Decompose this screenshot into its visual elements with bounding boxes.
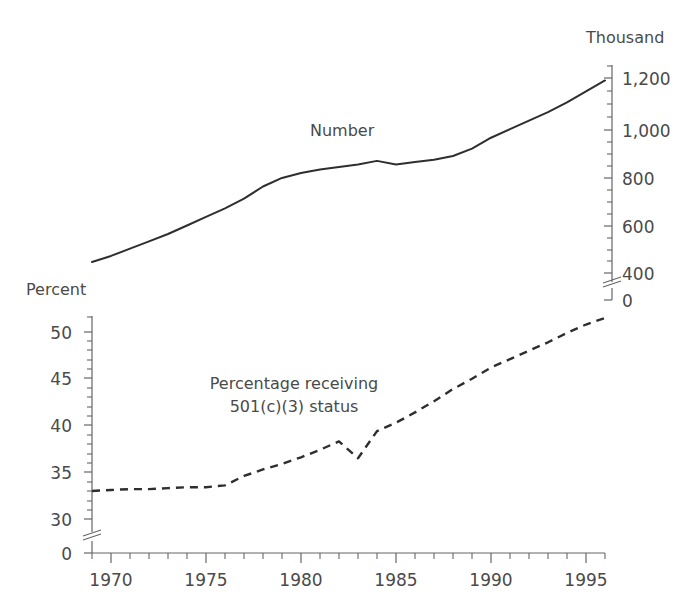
number-tick-label-1000: 1,000 [622,121,671,141]
number-axis-group: Thousand [585,28,671,311]
x-axis-major-ticks [111,553,586,563]
x-tick-label-1990: 1990 [469,570,512,590]
number-tick-label-600: 600 [622,217,654,237]
x-tick-label-1985: 1985 [374,570,417,590]
percent-tick-label-0: 0 [61,544,72,564]
number-tick-label-0: 0 [622,291,633,311]
x-tick-label-1970: 1970 [89,570,132,590]
number-axis-minor-ticks [607,66,612,261]
percent-tick-label-35: 35 [50,463,72,483]
number-tick-label-800: 800 [622,169,654,189]
annotation-percent-line2: 501(c)(3) status [230,397,359,416]
number-axis-unit-label: Thousand [585,28,664,47]
percent-tick-label-40: 40 [50,416,72,436]
x-tick-label-1995: 1995 [564,570,607,590]
x-axis-group: 197019751980198519901995 [89,553,607,590]
x-tick-label-1980: 1980 [279,570,322,590]
x-axis-minor-ticks [92,553,605,559]
series-label-number: Number [310,121,375,140]
percent-tick-label-30: 30 [50,510,72,530]
percent-axis-major-ticks [84,332,92,553]
chart-figure: Thousand [0,0,687,601]
percent-axis-group: Percent [26,280,101,564]
number-axis-major-ticks [604,78,612,300]
x-axis-tick-labels: 197019751980198519901995 [89,570,607,590]
percent-tick-label-50: 50 [50,323,72,343]
series-line-number [92,80,605,262]
percent-axis-unit-label: Percent [26,280,86,299]
x-tick-label-1975: 1975 [184,570,227,590]
annotation-percent-line1: Percentage receiving [210,374,378,393]
percent-axis-minor-ticks [87,317,92,510]
percent-tick-label-45: 45 [50,369,72,389]
chart-svg: Thousand [0,0,687,601]
number-tick-label-1200: 1,200 [622,69,671,89]
number-tick-label-400: 400 [622,264,654,284]
